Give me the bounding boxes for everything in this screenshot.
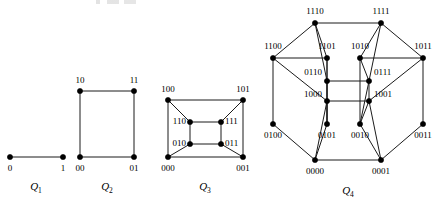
vertex-0100	[270, 121, 275, 126]
vertex-0101	[324, 121, 329, 126]
vertex-label-11: 11	[130, 75, 139, 85]
vertex-label-100: 100	[161, 84, 175, 94]
vertex-10	[77, 88, 82, 93]
vertices-q3: 100101000001110111010011	[161, 84, 250, 173]
vertex-label-011: 011	[225, 138, 238, 148]
vertex-label-0100: 0100	[264, 130, 283, 140]
vertex-label-10: 10	[76, 75, 86, 85]
vertex-label-1101: 1101	[318, 41, 336, 51]
vertex-111	[218, 119, 223, 124]
vertex-0110	[324, 78, 329, 83]
caption-q1: Q1	[30, 180, 42, 195]
edge-1010-0111	[360, 58, 369, 81]
vertex-label-0: 0	[8, 163, 13, 173]
vertex-1110	[312, 20, 317, 25]
edge-1001-0001	[369, 101, 381, 160]
vertex-label-111: 111	[225, 116, 238, 126]
caption-subscript-q3: 3	[207, 186, 211, 195]
caption-base-q3: Q	[199, 180, 207, 192]
vertices-q4: 1110111111001011110110100110011110001001…	[264, 6, 432, 176]
vertex-label-0011: 0011	[414, 130, 432, 140]
graph-q1: 01Q1	[7, 154, 65, 194]
vertex-label-1010: 1010	[351, 41, 370, 51]
vertex-label-1110: 1110	[306, 6, 324, 16]
caption-base-q4: Q	[342, 184, 350, 196]
vertex-label-0000: 0000	[306, 166, 325, 176]
vertex-label-1011: 1011	[414, 41, 432, 51]
caption-subscript-q2: 2	[109, 186, 113, 195]
vertex-0011	[420, 121, 425, 126]
vertex-1000	[324, 98, 329, 103]
vertex-0000	[312, 157, 317, 162]
vertex-1111	[378, 20, 383, 25]
vertex-label-1: 1	[61, 163, 66, 173]
vertex-label-101: 101	[236, 84, 250, 94]
vertex-0111	[366, 78, 371, 83]
vertex-label-001: 001	[236, 163, 250, 173]
vertex-label-110: 110	[173, 116, 187, 126]
vertex-000	[165, 154, 170, 159]
edges-q2	[80, 91, 134, 157]
vertex-label-0001: 0001	[372, 166, 390, 176]
vertex-0010	[357, 121, 362, 126]
vertex-100	[165, 97, 170, 102]
caption-base-q1: Q	[30, 180, 38, 192]
caption-q3: Q3	[199, 180, 211, 195]
graph-q3: 100101000001110111010011Q3	[161, 84, 250, 195]
vertex-010	[187, 141, 192, 146]
vertex-00	[77, 154, 82, 159]
vertex-1	[60, 154, 65, 159]
vertex-1101	[324, 55, 329, 60]
vertex-label-0101: 0101	[318, 130, 336, 140]
vertex-1010	[357, 55, 362, 60]
vertex-label-1100: 1100	[264, 41, 282, 51]
vertex-label-0010: 0010	[351, 130, 370, 140]
vertex-label-0110: 0110	[304, 67, 322, 77]
vertex-label-0111: 0111	[374, 67, 391, 77]
edges-q3	[168, 100, 243, 157]
caption-subscript-q4: 4	[350, 190, 354, 199]
caption-q2: Q2	[101, 180, 113, 195]
vertex-1001	[366, 98, 371, 103]
vertex-label-01: 01	[130, 163, 139, 173]
graph-q4: 1110111111001011110110100110011110001001…	[264, 6, 432, 199]
vertex-0	[7, 154, 12, 159]
vertex-1100	[270, 55, 275, 60]
vertex-label-1000: 1000	[304, 89, 323, 99]
vertex-1011	[420, 55, 425, 60]
vertex-101	[240, 97, 245, 102]
caption-base-q2: Q	[101, 180, 109, 192]
graphs-layer: 01Q110110001Q2100101000001110111010011Q3…	[7, 6, 431, 199]
vertex-11	[131, 88, 136, 93]
graph-canvas: 01Q110110001Q2100101000001110111010011Q3…	[0, 0, 440, 206]
vertex-label-000: 000	[161, 163, 175, 173]
vertex-011	[218, 141, 223, 146]
caption-subscript-q1: 1	[38, 186, 42, 195]
graph-q2: 10110001Q2	[76, 75, 139, 195]
vertex-001	[240, 154, 245, 159]
vertex-01	[131, 154, 136, 159]
vertex-110	[187, 119, 192, 124]
vertex-label-00: 00	[76, 163, 86, 173]
edges-q4	[273, 23, 423, 160]
vertex-label-1001: 1001	[374, 89, 392, 99]
vertex-0001	[378, 157, 383, 162]
vertex-label-1111: 1111	[373, 6, 390, 16]
vertices-q2: 10110001	[76, 75, 139, 173]
caption-q4: Q4	[342, 184, 354, 199]
hypercube-figure: 01Q110110001Q2100101000001110111010011Q3…	[0, 0, 440, 206]
vertex-label-010: 010	[173, 138, 187, 148]
